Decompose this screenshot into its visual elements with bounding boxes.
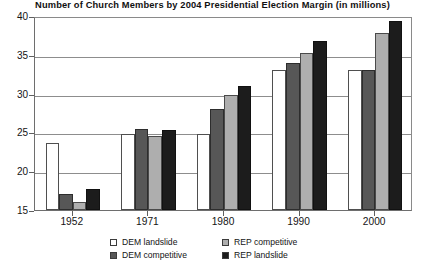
- legend-item: DEM competitive: [110, 249, 230, 262]
- chart-legend: DEM landslideDEM competitive REP competi…: [110, 236, 360, 262]
- x-tick-label-1980: 1980: [193, 216, 253, 228]
- y-tick-label-20: 20: [3, 167, 28, 177]
- bar: [210, 109, 224, 210]
- bar: [59, 194, 73, 210]
- x-tick-label-1952: 1952: [42, 216, 102, 228]
- bar: [389, 21, 403, 210]
- legend-item: REP landslide: [222, 249, 342, 262]
- legend-item: DEM landslide: [110, 236, 230, 249]
- bar: [362, 70, 376, 210]
- y-tick-label-15: 15: [3, 206, 28, 216]
- bar: [86, 189, 100, 210]
- legend-column-right: REP competitiveREP landslide: [222, 236, 342, 262]
- gridline-35: [35, 57, 411, 58]
- bar: [348, 70, 362, 210]
- legend-column-left: DEM landslideDEM competitive: [110, 236, 230, 262]
- legend-swatch-icon: [222, 252, 229, 259]
- x-tick-label-1971: 1971: [117, 216, 177, 228]
- y-tick-label-35: 35: [3, 51, 28, 61]
- bar: [286, 63, 300, 210]
- bar: [162, 130, 176, 210]
- bar: [73, 202, 87, 210]
- bar: [121, 134, 135, 210]
- bar-chart-figure: Number of Church Members by 2004 Preside…: [0, 0, 425, 263]
- chart-title: Number of Church Members by 2004 Preside…: [0, 0, 425, 11]
- bar: [238, 86, 252, 210]
- legend-swatch-icon: [222, 239, 229, 246]
- bar: [224, 95, 238, 210]
- legend-item: REP competitive: [222, 236, 342, 249]
- legend-label: DEM landslide: [122, 236, 177, 249]
- legend-swatch-icon: [110, 239, 117, 246]
- bar: [197, 134, 211, 210]
- bar: [300, 53, 314, 210]
- y-tick-label-30: 30: [3, 90, 28, 100]
- y-tick-label-40: 40: [3, 12, 28, 22]
- x-tick-label-1990: 1990: [269, 216, 329, 228]
- x-tick-label-2000: 2000: [344, 216, 404, 228]
- bar: [148, 136, 162, 210]
- legend-label: REP competitive: [234, 236, 297, 249]
- bar: [46, 143, 60, 211]
- y-tick-mark-15: [29, 211, 34, 212]
- bar: [313, 41, 327, 210]
- legend-swatch-icon: [110, 252, 117, 259]
- legend-label: REP landslide: [234, 249, 288, 262]
- legend-label: DEM competitive: [122, 249, 187, 262]
- bar: [135, 129, 149, 210]
- y-axis: 152025303540: [0, 0, 30, 263]
- bar: [375, 33, 389, 210]
- y-tick-label-25: 25: [3, 128, 28, 138]
- plot-area: [34, 17, 412, 211]
- bar: [272, 70, 286, 210]
